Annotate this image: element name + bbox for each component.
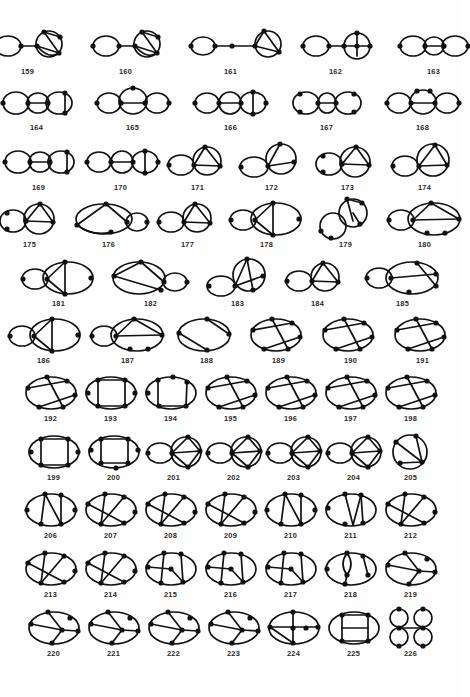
diagram-row: 175176177178179180 (0, 199, 461, 249)
diagram-cell: 226 (386, 608, 436, 658)
diagram-cell: 205 (386, 432, 436, 482)
diagram-label: 198 (404, 414, 417, 423)
diagram-cell: 203 (266, 432, 322, 482)
graph-diagram (229, 199, 305, 239)
diagram-label: 203 (287, 473, 300, 482)
diagram-label: 167 (320, 123, 333, 132)
diagram-row: 181182183184185 (0, 258, 461, 308)
diagram-label: 196 (284, 414, 297, 423)
diagram-cell: 186 (8, 315, 80, 365)
diagram-cell: 218 (323, 549, 379, 599)
diagram-cell: 223 (206, 608, 262, 658)
diagram-label: 207 (104, 531, 117, 540)
diagram-label: 164 (30, 123, 43, 132)
diagram-row: 169170171172173174 (0, 142, 461, 192)
graph-diagram (291, 84, 363, 122)
graph-diagram (86, 608, 142, 648)
graph-diagram (203, 490, 259, 530)
graph-diagram (90, 26, 162, 66)
diagram-label: 212 (404, 531, 417, 540)
diagram-label: 225 (347, 649, 360, 658)
diagram-cell: 183 (205, 258, 271, 308)
diagram-label: 161 (224, 67, 237, 76)
diagram-cell: 163 (398, 26, 470, 76)
graph-diagram (83, 549, 139, 589)
diagram-label: 218 (344, 590, 357, 599)
diagram-cell: 185 (365, 258, 441, 308)
diagram-label: 208 (164, 531, 177, 540)
diagram-row: 199200201202203204205 (0, 432, 461, 482)
diagram-cell: 206 (23, 490, 79, 540)
graph-diagram (320, 315, 382, 355)
diagram-cell: 204 (326, 432, 382, 482)
diagram-cell: 213 (23, 549, 79, 599)
diagram-cell: 214 (83, 549, 139, 599)
diagram-cell: 193 (83, 373, 139, 423)
diagram-cell: 169 (3, 142, 75, 192)
diagram-cell: 222 (146, 608, 202, 658)
graph-diagram (8, 315, 80, 355)
diagram-cell: 178 (229, 199, 305, 249)
diagram-cell: 201 (146, 432, 202, 482)
diagram-cell: 210 (263, 490, 319, 540)
graph-diagram (3, 142, 75, 182)
diagram-label: 160 (119, 67, 132, 76)
diagram-cell: 160 (90, 26, 162, 76)
graph-diagram (83, 490, 139, 530)
diagram-label: 217 (284, 590, 297, 599)
diagram-label: 197 (344, 414, 357, 423)
diagram-cell: 162 (300, 26, 372, 76)
diagram-cell: 191 (392, 315, 454, 365)
diagram-label: 183 (231, 299, 244, 308)
diagram-label: 173 (341, 183, 354, 192)
diagram-label: 211 (344, 531, 357, 540)
graph-diagram (26, 608, 82, 648)
diagram-cell: 181 (21, 258, 97, 308)
diagram-label: 204 (347, 473, 360, 482)
graph-diagram (176, 315, 238, 355)
diagram-cell: 188 (176, 315, 238, 365)
graph-diagram (266, 608, 322, 648)
diagram-cell: 197 (323, 373, 379, 423)
diagram-label: 187 (121, 356, 134, 365)
diagram-label: 174 (418, 183, 431, 192)
graph-diagram (266, 432, 322, 472)
diagram-label: 175 (23, 240, 36, 249)
graph-diagram (365, 258, 441, 298)
graph-diagram (206, 432, 262, 472)
diagram-label: 195 (224, 414, 237, 423)
graph-diagram (143, 490, 199, 530)
diagram-cell: 161 (188, 26, 274, 76)
diagram-cell: 165 (95, 84, 171, 132)
diagram-cell: 195 (203, 373, 259, 423)
diagram-cell: 221 (86, 608, 142, 658)
graph-diagram (143, 549, 199, 589)
graph-diagram (315, 142, 381, 182)
diagram-cell: 207 (83, 490, 139, 540)
diagram-row: 213214215216217218219 (0, 549, 461, 599)
diagram-label: 171 (191, 183, 204, 192)
diagram-label: 224 (287, 649, 300, 658)
graph-diagram (90, 315, 166, 355)
diagram-label: 206 (44, 531, 57, 540)
diagram-label: 191 (416, 356, 429, 365)
graph-diagram (392, 315, 454, 355)
graph-diagram (285, 258, 351, 298)
diagram-cell: 215 (143, 549, 199, 599)
diagram-row: 186187188189190191 (0, 315, 461, 365)
diagram-label: 219 (404, 590, 417, 599)
graph-diagram (203, 549, 259, 589)
diagram-cell: 168 (385, 84, 461, 132)
diagram-label: 199 (47, 473, 60, 482)
graph-diagram (398, 26, 470, 66)
graph-diagram (143, 373, 199, 413)
graph-diagram (95, 84, 171, 122)
graph-diagram (26, 432, 82, 472)
diagram-cell: 192 (23, 373, 79, 423)
graph-diagram (263, 373, 319, 413)
diagram-cell: 187 (90, 315, 166, 365)
graph-diagram (83, 373, 139, 413)
graph-diagram (383, 490, 439, 530)
diagram-cell: 202 (206, 432, 262, 482)
